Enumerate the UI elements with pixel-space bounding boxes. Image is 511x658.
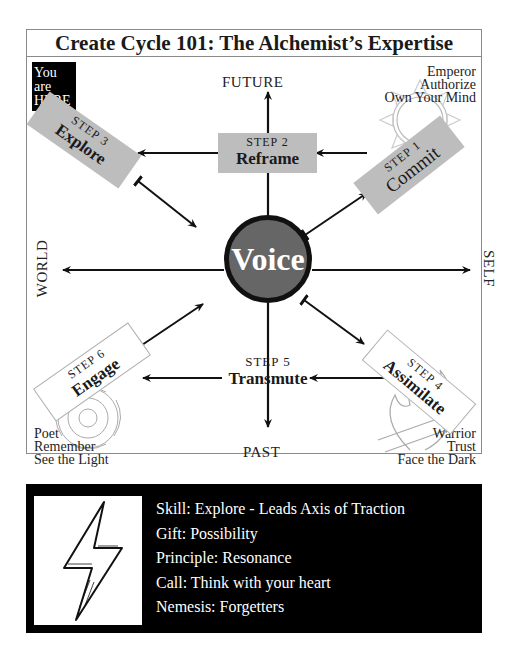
info-lines: Skill: Explore - Leads Axis of Traction … — [156, 497, 405, 620]
step-number: STEP 2 — [218, 135, 317, 150]
archetype-motto: Face the Dark — [370, 453, 476, 466]
step-5-transmute[interactable]: STEP 5 Transmute — [218, 354, 318, 394]
info-principle: Principle: Resonance — [156, 546, 405, 571]
axis-label-future: FUTURE — [222, 74, 283, 91]
arrow-step6-to-voice — [142, 304, 203, 345]
info-call: Call: Think with your heart — [156, 571, 405, 596]
lightning-bolt-icon — [34, 496, 142, 625]
step-number: STEP 5 — [218, 354, 318, 370]
arrow-voice-to-step1 — [305, 193, 367, 235]
archetype-poet: Poet Remember See the Light — [34, 427, 109, 466]
info-skill: Skill: Explore - Leads Axis of Traction — [156, 497, 405, 522]
you-are-here-line1: You are — [34, 66, 76, 94]
step-name: Transmute — [218, 370, 318, 388]
info-nemesis: Nemesis: Forgetters — [156, 595, 405, 620]
axis-label-world: WORLD — [34, 240, 51, 298]
icon-box — [34, 496, 142, 625]
axis-label-past: PAST — [243, 444, 280, 461]
archetype-motto: Own Your Mind — [370, 91, 476, 104]
arrow-step3-to-voice — [138, 181, 196, 227]
axis-label-self: SELF — [480, 250, 497, 287]
archetype-motto: See the Light — [34, 453, 109, 466]
arrow-voice-to-step4 — [304, 300, 364, 344]
voice-center-node[interactable]: Voice — [224, 215, 312, 303]
step-name: Reframe — [218, 150, 317, 168]
archetype-warrior: Warrior Trust Face the Dark — [370, 427, 476, 466]
archetype-emperor: Emperor Authorize Own Your Mind — [370, 65, 476, 104]
info-gift: Gift: Possibility — [156, 522, 405, 547]
step-2-reframe[interactable]: STEP 2 Reframe — [218, 133, 317, 173]
